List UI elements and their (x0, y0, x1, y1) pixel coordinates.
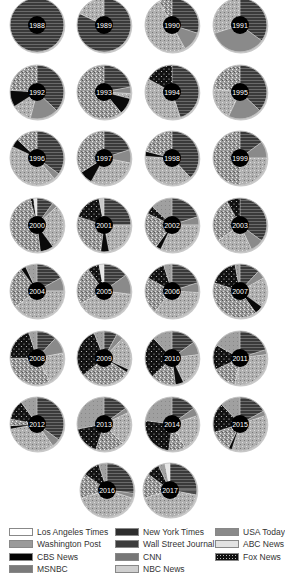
legend: Los Angeles TimesNew York TimesUSA Today… (0, 526, 285, 586)
pie-1997: 1997 (77, 131, 132, 187)
year-label: 2009 (96, 355, 112, 362)
year-label: 2004 (29, 288, 45, 295)
pie-1995: 1995 (213, 65, 268, 121)
legend-swatch (9, 528, 33, 536)
legend-swatch (215, 540, 239, 548)
year-label: 1991 (232, 22, 248, 29)
year-label: 2011 (232, 355, 247, 362)
pie-2005: 2005 (77, 264, 132, 320)
year-label: 2003 (232, 222, 248, 229)
pie-2016: 2016 (80, 463, 135, 519)
legend-label: Washington Post (37, 539, 101, 549)
pie-chart-grid: 1988198919901991199219931994199519961997… (0, 0, 285, 520)
pie-2002: 2002 (145, 198, 200, 254)
legend-swatch (115, 565, 139, 573)
legend-swatch (9, 540, 33, 548)
year-label: 2012 (29, 421, 45, 428)
year-label: 1998 (164, 155, 180, 162)
legend-swatch (215, 553, 239, 561)
legend-item-cnn: CNN (115, 551, 161, 562)
year-label: 1997 (96, 155, 112, 162)
year-label: 1989 (96, 22, 112, 29)
year-label: 1992 (29, 89, 45, 96)
year-label: 1993 (96, 89, 112, 96)
year-label: 2017 (162, 487, 178, 494)
pie-2014: 2014 (145, 397, 200, 453)
pie-1998: 1998 (145, 131, 200, 187)
legend-label: Fox News (243, 552, 281, 562)
legend-item-wsj: Wall Street Journal (115, 539, 215, 550)
year-label: 2001 (96, 222, 112, 229)
pie-2012: 2012 (10, 397, 65, 453)
legend-swatch (115, 540, 139, 548)
pie-2010: 2010 (145, 331, 200, 387)
legend-swatch (9, 565, 33, 573)
year-label: 1990 (164, 22, 180, 29)
year-label: 2006 (164, 288, 180, 295)
year-label: 1999 (232, 155, 248, 162)
pie-1989: 1989 (77, 0, 132, 53)
legend-label: Wall Street Journal (143, 539, 215, 549)
pie-2007: 2007 (213, 264, 268, 320)
legend-item-lat: Los Angeles Times (9, 526, 108, 537)
pie-2000: 2000 (10, 198, 65, 254)
legend-swatch (115, 553, 139, 561)
pie-2017: 2017 (143, 463, 198, 519)
year-label: 1994 (164, 89, 180, 96)
year-label: 2010 (164, 355, 180, 362)
year-label: 2008 (29, 355, 45, 362)
pie-1993: 1993 (77, 65, 132, 121)
pie-2004: 2004 (10, 264, 65, 320)
year-label: 2000 (29, 222, 45, 229)
pie-1990: 1990 (145, 0, 200, 54)
legend-label: Los Angeles Times (37, 527, 108, 537)
year-label: 2007 (232, 288, 248, 295)
year-label: 2014 (164, 421, 180, 428)
pie-2006: 2006 (145, 264, 200, 320)
legend-item-abc: ABC News (215, 539, 284, 550)
pie-1991: 1991 (213, 0, 268, 54)
legend-item-nyt: New York Times (115, 526, 204, 537)
pie-2011: 2011 (213, 331, 268, 387)
pie-1988: 1988 (10, 0, 65, 54)
year-label: 1996 (29, 155, 45, 162)
legend-swatch (215, 528, 239, 536)
legend-item-cbs: CBS News (9, 551, 78, 562)
pie-2009: 2009 (77, 331, 132, 387)
legend-label: USA Today (243, 527, 285, 537)
pie-1992: 1992 (10, 65, 65, 121)
legend-item-wp: Washington Post (9, 539, 101, 550)
legend-item-fox: Fox News (215, 551, 281, 562)
pie-2003: 2003 (213, 198, 268, 254)
pie-2001: 2001 (77, 198, 132, 254)
pie-2008: 2008 (10, 331, 65, 387)
legend-swatch (115, 528, 139, 536)
pie-1999: 1999 (213, 131, 268, 187)
pie-1996: 1996 (10, 131, 65, 187)
legend-swatch (9, 553, 33, 561)
pie-2013: 2013 (77, 397, 132, 453)
pie-1994: 1994 (145, 65, 200, 121)
legend-label: CNN (143, 552, 161, 562)
legend-label: NBC News (143, 564, 185, 574)
legend-label: ABC News (243, 539, 284, 549)
year-label: 2005 (96, 288, 112, 295)
legend-item-nbc: NBC News (115, 564, 185, 575)
year-label: 2015 (232, 421, 248, 428)
year-label: 2002 (164, 222, 180, 229)
legend-item-msnbc: MSNBC (9, 564, 68, 575)
legend-label: New York Times (143, 527, 204, 537)
year-label: 2013 (96, 421, 112, 428)
year-label: 2016 (99, 487, 115, 494)
year-label: 1995 (232, 89, 248, 96)
year-label: 1988 (29, 22, 45, 29)
pie-2015: 2015 (213, 397, 268, 453)
legend-item-usa: USA Today (215, 526, 285, 537)
legend-label: CBS News (37, 552, 78, 562)
legend-label: MSNBC (37, 564, 68, 574)
